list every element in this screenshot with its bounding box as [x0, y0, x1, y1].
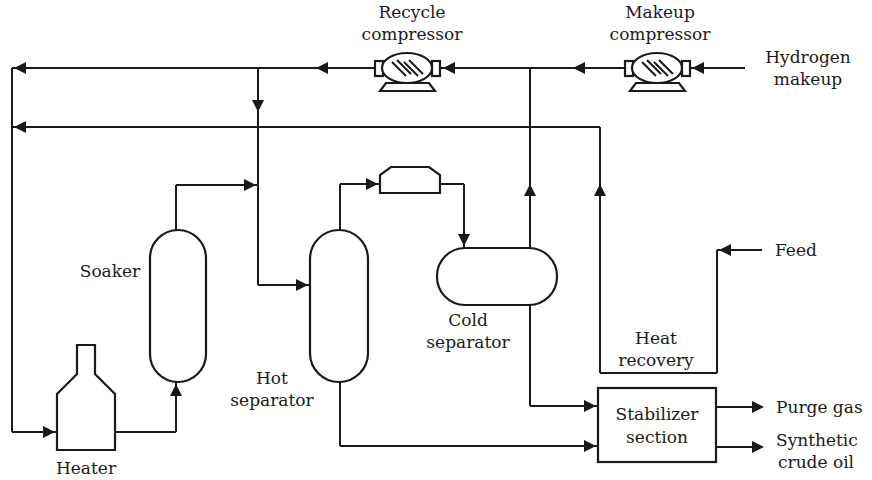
stabilizer-label-1: Stabilizer [616, 404, 700, 424]
recycle-compressor-icon [375, 53, 440, 91]
hot-separator-label-1: Hot [256, 368, 288, 388]
synthetic-crude-label-1: Synthetic [776, 430, 858, 450]
soaker-label: Soaker [80, 261, 141, 281]
hydrogen-makeup-label-1: Hydrogen [765, 47, 851, 67]
process-flow-diagram: Recycle compressor Makeup compressor Hyd… [0, 0, 872, 480]
heater-label: Heater [56, 458, 117, 478]
stabilizer-label-2: section [626, 427, 688, 447]
soaker-vessel-icon [150, 230, 206, 382]
cold-separator-label-1: Cold [448, 310, 488, 330]
hot-separator-label-2: separator [230, 390, 314, 410]
synthetic-crude-label-2: crude oil [778, 452, 854, 472]
cooler-icon [380, 167, 440, 193]
hydrogen-makeup-label-2: makeup [774, 69, 843, 89]
makeup-compressor-label-1: Makeup [625, 2, 695, 22]
makeup-compressor-label-2: compressor [610, 24, 712, 44]
cold-separator-label-2: separator [426, 332, 510, 352]
stabilizer-section-box [598, 388, 716, 462]
recycle-compressor-label-2: compressor [362, 24, 464, 44]
recycle-compressor-label-1: Recycle [378, 2, 445, 22]
hot-separator-vessel-icon [310, 230, 368, 382]
cold-separator-vessel-icon [437, 248, 557, 305]
heat-recovery-label-2: recovery [618, 350, 694, 370]
feed-label: Feed [775, 240, 817, 260]
makeup-compressor-icon [625, 53, 690, 91]
heat-recovery-label-1: Heat [635, 328, 677, 348]
purge-gas-label: Purge gas [776, 397, 863, 417]
heater-icon [57, 345, 115, 450]
